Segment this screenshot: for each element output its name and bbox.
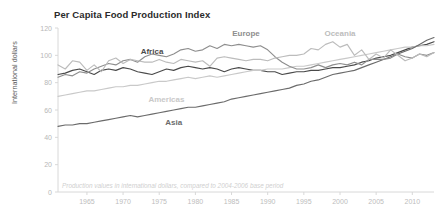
series-label-asia: Asia (165, 118, 182, 127)
y-tick-label: 0 (48, 189, 52, 196)
y-tick-label: 120 (40, 25, 52, 32)
series-label-oceania: Oceania (324, 29, 356, 38)
series-label-africa: Africa (141, 47, 164, 56)
x-tick-label: 1985 (224, 198, 240, 205)
page-title: Per Capita Food Production Index (54, 9, 210, 20)
x-tick-label: 2010 (405, 198, 421, 205)
line-chart-svg: 0204060801001201965197019751980198519901… (58, 28, 434, 192)
series-label-europe: Europe (232, 29, 260, 38)
x-tick-label: 1980 (188, 198, 204, 205)
y-tick-label: 80 (44, 79, 52, 86)
x-tick-label: 1990 (260, 198, 276, 205)
y-tick-label: 20 (44, 161, 52, 168)
y-tick-label: 40 (44, 134, 52, 141)
series-line-asia (58, 38, 434, 127)
x-tick-label: 1965 (79, 198, 95, 205)
x-tick-label: 2000 (332, 198, 348, 205)
chart-container: Per Capita Food Production Index Interna… (0, 0, 440, 219)
x-tick-label: 2005 (368, 198, 384, 205)
x-tick-label: 1970 (115, 198, 131, 205)
y-axis-title: International dollars (10, 23, 19, 123)
x-tick-label: 1995 (296, 198, 312, 205)
x-tick-label: 1975 (151, 198, 167, 205)
y-tick-label: 60 (44, 107, 52, 114)
y-tick-label: 100 (40, 52, 52, 59)
series-label-americas: Americas (148, 95, 185, 104)
plot-area: 0204060801001201965197019751980198519901… (58, 28, 434, 192)
chart-footnote: Production values in international dolla… (62, 182, 284, 190)
